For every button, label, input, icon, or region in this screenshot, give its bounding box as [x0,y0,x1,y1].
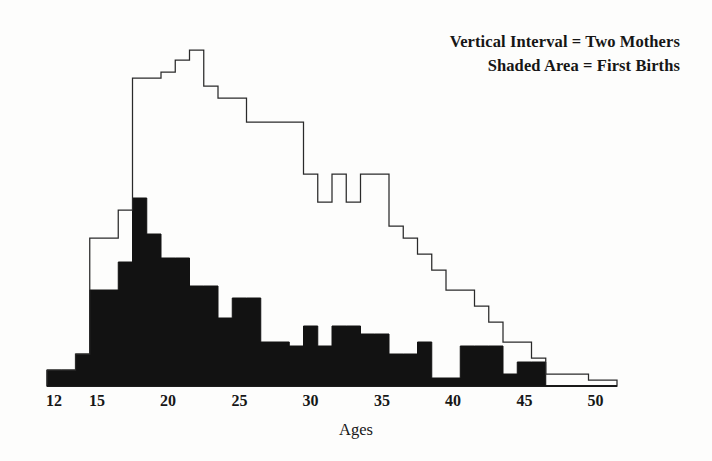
histogram-figure: Vertical Interval = Two Mothers Shaded A… [0,0,712,461]
x-tick-label-50: 50 [588,392,604,410]
x-tick-label-20: 20 [160,392,176,410]
legend-line-shaded-area: Shaded Area = First Births [450,54,680,78]
x-tick-label-25: 25 [231,392,247,410]
legend-line-vertical-interval: Vertical Interval = Two Mothers [450,30,680,54]
x-tick-label-30: 30 [303,392,319,410]
x-tick-label-35: 35 [374,392,390,410]
chart-legend: Vertical Interval = Two Mothers Shaded A… [450,30,680,78]
x-tick-label-40: 40 [445,392,461,410]
x-axis-title: Ages [339,420,373,440]
x-tick-label-15: 15 [89,392,105,410]
x-tick-label-45: 45 [516,392,532,410]
x-tick-label-12: 12 [46,392,62,410]
